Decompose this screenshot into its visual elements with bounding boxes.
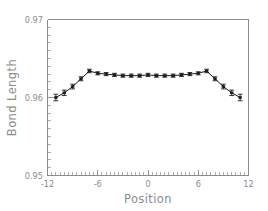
data-point-marker [63, 92, 66, 95]
data-point-marker [222, 85, 225, 88]
x-tick-label: -6 [94, 179, 102, 189]
data-point-marker [213, 77, 216, 80]
x-tick-label: 12 [243, 179, 253, 189]
data-point-marker [113, 74, 116, 77]
data-point-marker [197, 72, 200, 75]
data-point-marker [96, 72, 99, 75]
y-tick-label: 0.95 [25, 171, 43, 181]
y-tick-label: 0.97 [25, 15, 43, 25]
x-axis-title: Position [124, 192, 172, 206]
y-axis-title: Bond Length [5, 59, 19, 136]
x-tick-label: 6 [196, 179, 201, 189]
data-point-marker [205, 70, 208, 73]
data-point-marker [230, 92, 233, 95]
data-point-marker [121, 74, 124, 77]
data-point-marker [155, 74, 158, 77]
data-point-marker [79, 77, 82, 80]
data-point-marker [88, 70, 91, 73]
data-point-marker [180, 74, 183, 77]
data-point-marker [130, 74, 133, 77]
data-point-marker [146, 74, 149, 77]
data-point-marker [163, 74, 166, 77]
y-tick-label: 0.96 [25, 93, 43, 103]
data-point-marker [138, 74, 141, 77]
x-tick-label: 0 [145, 179, 150, 189]
data-point-marker [171, 74, 174, 77]
data-point-marker [104, 73, 107, 76]
bond-length-plot: -12-606120.950.960.97 Position Bond Leng… [0, 0, 268, 211]
data-point-marker [238, 96, 241, 99]
x-tick-label: -12 [41, 179, 54, 189]
data-point-marker [71, 85, 74, 88]
chart-figure: -12-606120.950.960.97 Position Bond Leng… [0, 0, 268, 211]
data-point-marker [188, 73, 191, 76]
data-point-marker [54, 96, 57, 99]
